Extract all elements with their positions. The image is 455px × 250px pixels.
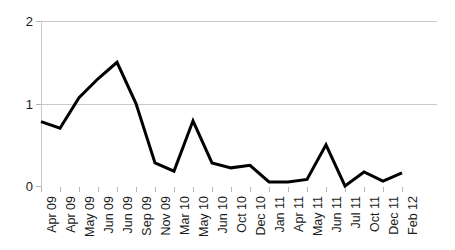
- series-polyline: [41, 62, 402, 186]
- line-chart: 012 Apr 09Apr 09May 09Jun 09Jun 09Sep 09…: [0, 0, 455, 250]
- data-series-line: [0, 0, 455, 250]
